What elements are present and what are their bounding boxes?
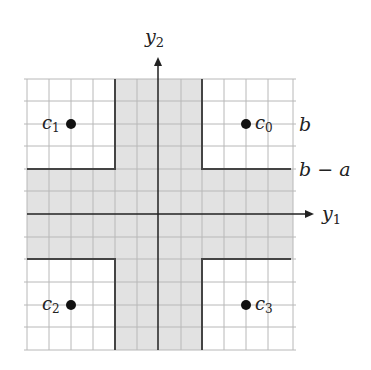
c0-label: c0 [255, 112, 273, 135]
y2-axis-label: y2 [144, 25, 164, 50]
level-b-minus-a-label: b − a [299, 158, 351, 180]
point-c3 [241, 300, 251, 310]
c1-label: c1 [42, 112, 60, 135]
c3-label: c3 [255, 293, 273, 316]
cross-region-diagram: y2 y1 b b − a c0 c1 c2 c3 [0, 0, 371, 370]
point-c0 [241, 119, 251, 129]
point-c2 [66, 300, 76, 310]
c2-label: c2 [42, 293, 60, 316]
y1-axis-label: y1 [321, 202, 341, 227]
point-c1 [66, 119, 76, 129]
level-b-label: b [299, 113, 311, 135]
y2-arrow-icon [154, 57, 162, 66]
y1-arrow-icon [305, 210, 314, 218]
